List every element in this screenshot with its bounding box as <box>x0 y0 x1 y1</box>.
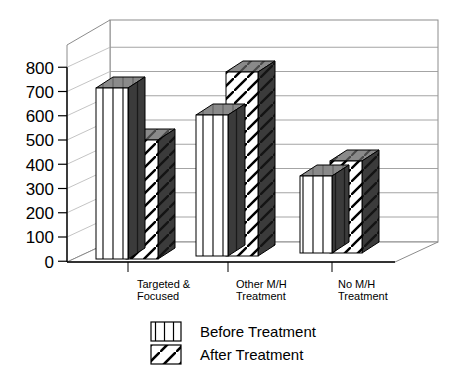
bar-front-face <box>96 88 128 259</box>
y-axis-ticks <box>58 67 67 261</box>
y-tick-label-600: 600 <box>26 107 54 126</box>
bar-side-face <box>158 129 175 259</box>
bar-side-face <box>258 61 275 256</box>
y-tick-label-500: 500 <box>26 131 54 150</box>
bar-side-face <box>362 150 379 253</box>
category-label-2-line1: Other M/H <box>236 278 287 290</box>
y-tick-label-0: 0 <box>45 253 54 272</box>
category-label-1-line1: Targeted & <box>137 278 191 290</box>
bar-front-face <box>196 115 228 256</box>
bar-before-no-mh <box>300 165 349 253</box>
x-axis-category-labels: Targeted & Focused Other M/H Treatment N… <box>137 278 388 302</box>
category-label-3-line1: No M/H <box>338 278 375 290</box>
y-tick-label-700: 700 <box>26 83 54 102</box>
bar-front-face <box>300 176 332 253</box>
category-label-3-line2: Treatment <box>338 290 388 302</box>
y-axis: 800 700 600 500 400 300 200 100 0 <box>26 59 67 272</box>
chart-container: 800 700 600 500 400 300 200 100 0 <box>0 0 456 380</box>
x-axis <box>67 262 395 272</box>
bar-side-face <box>332 165 349 253</box>
legend-item-after-treatment[interactable]: After Treatment <box>151 345 304 364</box>
bar-side-face <box>128 77 145 259</box>
y-tick-label-200: 200 <box>26 204 54 223</box>
y-tick-label-400: 400 <box>26 156 54 175</box>
bar-chart-3d: 800 700 600 500 400 300 200 100 0 <box>0 0 456 380</box>
diagonal-lines-swatch-icon <box>151 345 181 364</box>
bar-before-targeted <box>96 77 145 259</box>
y-tick-label-800: 800 <box>26 59 54 78</box>
legend-label-before: Before Treatment <box>200 323 317 340</box>
category-label-1-line2: Focused <box>137 290 179 302</box>
bar-before-other-mh <box>196 104 245 256</box>
legend-item-before-treatment[interactable]: Before Treatment <box>151 322 317 341</box>
category-label-2-line2: Treatment <box>236 290 286 302</box>
y-tick-label-300: 300 <box>26 180 54 199</box>
y-tick-label-100: 100 <box>26 228 54 247</box>
bar-side-face <box>228 104 245 256</box>
vertical-lines-swatch-icon <box>151 322 181 341</box>
legend-label-after: After Treatment <box>200 346 304 363</box>
chart-legend: Before Treatment After Treatment <box>151 322 317 364</box>
